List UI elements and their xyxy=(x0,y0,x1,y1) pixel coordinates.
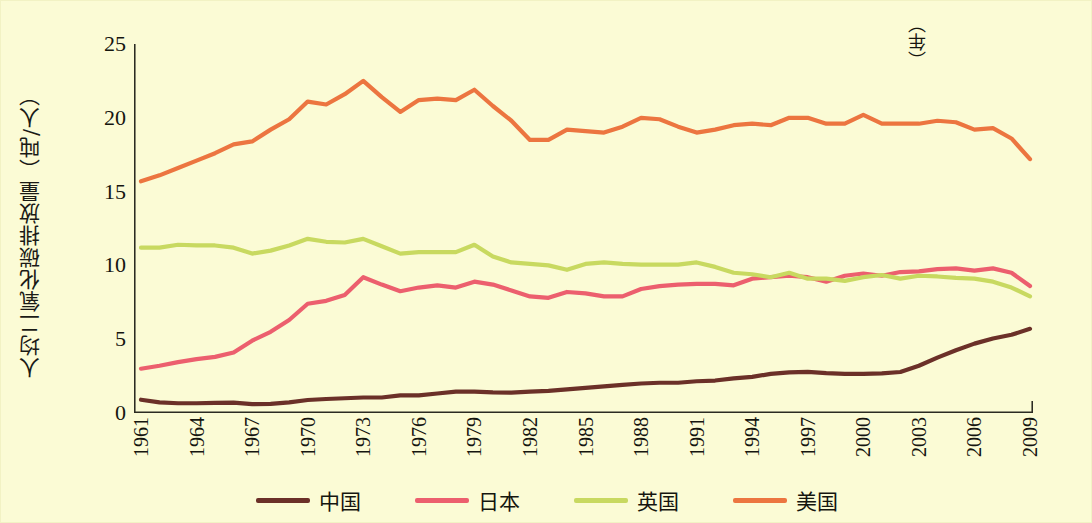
x-axis-tick-label: 1982 xyxy=(520,417,540,461)
chart-canvas xyxy=(134,44,1033,413)
x-axis-tick-label: 2009 xyxy=(1020,417,1040,461)
y-axis-title-text: 人均二氧化碳排放量（吨/人） xyxy=(16,84,46,378)
x-axis-tick-label-text: 1982 xyxy=(520,417,540,457)
x-axis-tick-label: 2003 xyxy=(909,417,929,461)
x-axis-tick-label-text: 1985 xyxy=(576,417,596,457)
x-axis-tick-labels: 1961196419671970197319761979198219851988… xyxy=(134,417,1033,479)
x-axis-tick-label-text: 2006 xyxy=(964,417,984,457)
x-axis-tick-label: 1964 xyxy=(187,417,207,461)
legend-label: 英国 xyxy=(637,485,679,515)
x-axis-tick-label: 1985 xyxy=(576,417,596,461)
x-axis-tick-label: 1973 xyxy=(353,417,373,461)
legend-color-swatch xyxy=(256,498,310,503)
x-axis-tick-label: 1967 xyxy=(242,417,262,461)
y-axis-tick-label: 25 xyxy=(84,33,126,55)
x-axis-tick-label: 1997 xyxy=(798,417,818,461)
x-axis-tick-label-text: 1979 xyxy=(464,417,484,457)
y-axis-tick-label: 20 xyxy=(84,107,126,129)
chart-figure: 人均二氧化碳排放量（吨/人） 0510152025 19611964196719… xyxy=(0,0,1092,523)
x-axis-tick-label: 1991 xyxy=(687,417,707,461)
legend-item[interactable]: 中国 xyxy=(256,485,361,515)
x-axis-tick-label-text: 1994 xyxy=(742,417,762,457)
series-line-1 xyxy=(141,329,1030,404)
x-axis-tick-label-text: 2009 xyxy=(1020,417,1040,457)
legend-color-swatch xyxy=(574,498,628,503)
y-axis-tick-labels: 0510152025 xyxy=(74,44,126,413)
x-axis-tick-label: 1961 xyxy=(131,417,151,461)
legend-label: 美国 xyxy=(796,485,838,515)
x-axis-unit-label: （年） xyxy=(906,15,932,69)
x-axis-tick-label-text: 1988 xyxy=(631,417,651,457)
y-axis-title: 人均二氧化碳排放量（吨/人） xyxy=(11,41,51,421)
legend-color-swatch xyxy=(415,498,469,503)
x-axis-tick-label: 1979 xyxy=(464,417,484,461)
x-axis-tick-label-text: 1967 xyxy=(242,417,262,457)
y-axis-tick-label: 15 xyxy=(84,181,126,203)
x-axis-tick-label: 1988 xyxy=(631,417,651,461)
x-axis-tick-label-text: 2003 xyxy=(909,417,929,457)
legend-item[interactable]: 日本 xyxy=(415,485,520,515)
legend-color-swatch xyxy=(733,498,787,503)
x-axis-tick-label-text: 1964 xyxy=(187,417,207,457)
legend-item[interactable]: 英国 xyxy=(574,485,679,515)
y-axis-tick-label: 5 xyxy=(84,328,126,350)
x-axis-tick-label-text: 2000 xyxy=(853,417,873,457)
plot-area xyxy=(134,44,1033,413)
x-axis-tick-label: 1976 xyxy=(409,417,429,461)
series-line-2 xyxy=(141,268,1030,368)
legend-item[interactable]: 美国 xyxy=(733,485,838,515)
x-axis-tick-label-text: 1997 xyxy=(798,417,818,457)
legend-label: 中国 xyxy=(319,485,361,515)
series-line-4 xyxy=(141,81,1030,181)
x-axis-tick-label-text: 1970 xyxy=(298,417,318,457)
axis-spine xyxy=(135,44,1033,412)
y-axis-tick-label: 10 xyxy=(84,254,126,276)
chart-legend: 中国日本英国美国 xyxy=(1,485,1092,515)
legend-label: 日本 xyxy=(478,485,520,515)
x-axis-tick-label: 2000 xyxy=(853,417,873,461)
x-axis-tick-label: 1994 xyxy=(742,417,762,461)
x-axis-tick-label-text: 1976 xyxy=(409,417,429,457)
y-axis-tick-label: 0 xyxy=(84,402,126,424)
series-line-3 xyxy=(141,239,1030,297)
x-axis-tick-label-text: 1961 xyxy=(131,417,151,457)
x-axis-tick-label: 2006 xyxy=(964,417,984,461)
x-axis-tick-label: 1970 xyxy=(298,417,318,461)
x-axis-tick-label-text: 1973 xyxy=(353,417,373,457)
x-axis-tick-label-text: 1991 xyxy=(687,417,707,457)
